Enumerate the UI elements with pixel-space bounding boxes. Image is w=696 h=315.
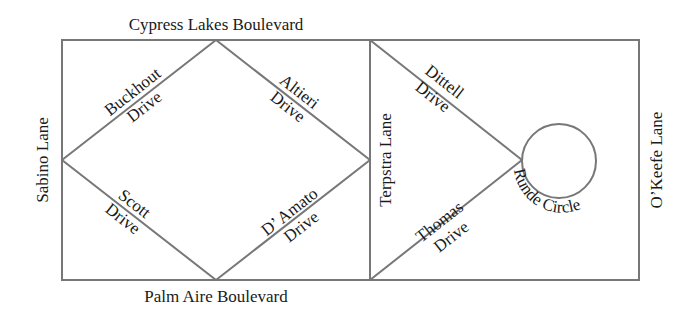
label-terpstra-lane: Terpstra Lane	[376, 113, 395, 207]
label-sabino-lane: Sabino Lane	[33, 117, 52, 202]
label-cypress-lakes-boulevard: Cypress Lakes Boulevard	[129, 15, 304, 34]
street-map: Cypress Lakes Boulevard Palm Aire Boulev…	[0, 0, 696, 315]
label-palm-aire-boulevard: Palm Aire Boulevard	[144, 287, 288, 306]
label-buckhout-drive: Buckhout Drive	[101, 64, 177, 135]
label-thomas-drive: Thomas Drive	[412, 197, 479, 261]
label-damato-drive: D’ Amato Drive	[258, 184, 334, 255]
label-scott-drive: Scott Drive	[102, 184, 156, 238]
label-runde-circle: Runde Circle	[510, 167, 583, 217]
label-okeefe-lane: O’Keefe Lane	[647, 112, 666, 209]
label-altieri-drive: Altieri Drive	[264, 71, 323, 128]
